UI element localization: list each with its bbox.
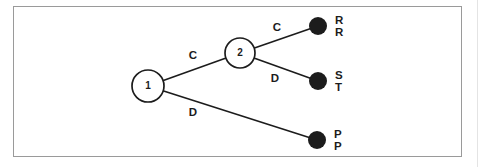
payoff-label-r-1: R xyxy=(335,14,344,26)
edge-label-d-n2: D xyxy=(271,72,279,84)
game-tree-diagram: CCDD12RRSTPP xyxy=(0,0,479,167)
terminal-node-st xyxy=(309,72,327,90)
edge-label-c-n1: C xyxy=(189,49,197,61)
payoff-label-s-1: S xyxy=(335,69,343,81)
payoff-label-p-2: P xyxy=(334,140,342,152)
terminal-node-rr xyxy=(309,17,327,35)
edge-line-n1-t3 xyxy=(148,86,317,140)
figure-canvas: CCDD12RRSTPP xyxy=(0,0,479,167)
terminal-node-pp xyxy=(308,131,326,149)
payoff-label-r-2: R xyxy=(335,26,344,38)
decision-node-label-1: 1 xyxy=(145,80,151,91)
edge-label-d-n1: D xyxy=(189,106,197,118)
edge-label-c-n2: C xyxy=(273,21,281,33)
decision-node-label-2: 2 xyxy=(237,47,243,58)
payoff-label-p-1: P xyxy=(334,128,342,140)
payoff-label-t-2: T xyxy=(335,81,342,93)
